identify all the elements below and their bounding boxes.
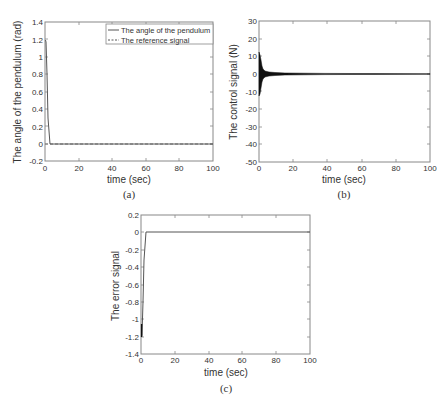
svg-text:0: 0 [135,228,140,237]
svg-text:30: 30 [248,17,257,26]
y-axis-label: The control signal (N) [228,44,239,140]
svg-text:20: 20 [171,356,180,365]
svg-text:40: 40 [205,356,214,365]
svg-text:60: 60 [142,164,151,173]
caption-c: (c) [220,382,233,395]
legend-entry-angle: The angle of the pendulum [121,26,210,35]
svg-text:-30: -30 [245,123,257,132]
svg-text:80: 80 [272,356,281,365]
svg-text:0.2: 0.2 [128,211,140,220]
svg-text:1.4: 1.4 [32,18,44,27]
svg-text:100: 100 [423,164,437,173]
x-axis-label: time (sec) [322,174,366,185]
svg-text:1: 1 [39,53,44,62]
y-axis-label: The error signal [110,251,121,321]
svg-text:40: 40 [323,164,332,173]
chart-a-pendulum-angle: -0.2 0 0.2 0.4 0.6 0.8 1 1.2 1.4 0 20 40… [0,0,225,200]
svg-text:0: 0 [253,70,258,79]
svg-text:10: 10 [248,52,257,61]
svg-text:20: 20 [75,164,84,173]
x-axis-ticks: 0 20 40 60 80 100 [43,164,220,173]
x-axis-label: time (sec) [204,367,248,378]
plot-area [141,215,310,354]
svg-text:-1.4: -1.4 [125,350,139,359]
svg-text:-0.2: -0.2 [29,157,43,166]
legend: The angle of the pendulum The reference … [106,24,213,45]
svg-text:100: 100 [303,356,317,365]
svg-text:-1.2: -1.2 [125,333,139,342]
svg-text:-0.2: -0.2 [125,246,139,255]
svg-text:0: 0 [43,164,48,173]
svg-text:80: 80 [175,164,184,173]
svg-text:60: 60 [358,164,367,173]
svg-text:0: 0 [257,164,262,173]
svg-text:-20: -20 [245,105,257,114]
svg-text:0.8: 0.8 [32,70,44,79]
y-axis-ticks: -50 -40 -30 -20 -10 0 10 20 30 [245,17,257,167]
chart-c-error-signal: -1.4 -1.2 -1 -0.8 -0.6 -0.4 -0.2 0 0.2 0… [110,200,335,406]
svg-text:60: 60 [238,356,247,365]
svg-text:0: 0 [139,356,144,365]
svg-text:0.6: 0.6 [32,88,44,97]
svg-text:20: 20 [289,164,298,173]
y-axis-label: The angle of the pendulum (rad) [12,21,23,164]
chart-b-control-signal: -50 -40 -30 -20 -10 0 10 20 30 0 20 40 6… [225,0,447,200]
svg-text:-0.8: -0.8 [125,298,139,307]
svg-text:-0.4: -0.4 [125,263,139,272]
y-axis-ticks: -1.4 -1.2 -1 -0.8 -0.6 -0.4 -0.2 0 0.2 [125,211,139,359]
caption-b: (b) [338,188,351,200]
svg-text:-0.6: -0.6 [125,281,139,290]
svg-text:-10: -10 [245,88,257,97]
svg-text:80: 80 [392,164,401,173]
svg-text:1.2: 1.2 [32,36,44,45]
legend-entry-reference: The reference signal [121,36,190,45]
x-axis-label: time (sec) [107,174,151,185]
svg-text:0: 0 [39,140,44,149]
x-axis-ticks: 0 20 40 60 80 100 [139,356,317,365]
svg-text:40: 40 [108,164,117,173]
svg-text:0.2: 0.2 [32,123,44,132]
y-axis-ticks: -0.2 0 0.2 0.4 0.6 0.8 1 1.2 1.4 [29,18,43,166]
caption-a: (a) [123,188,136,200]
svg-text:0.4: 0.4 [32,105,44,114]
svg-text:20: 20 [248,35,257,44]
svg-text:-1: -1 [132,315,140,324]
svg-text:-50: -50 [245,158,257,167]
x-axis-ticks: 0 20 40 60 80 100 [257,164,437,173]
svg-text:-40: -40 [245,140,257,149]
plot-area [259,21,430,162]
svg-text:100: 100 [206,164,220,173]
